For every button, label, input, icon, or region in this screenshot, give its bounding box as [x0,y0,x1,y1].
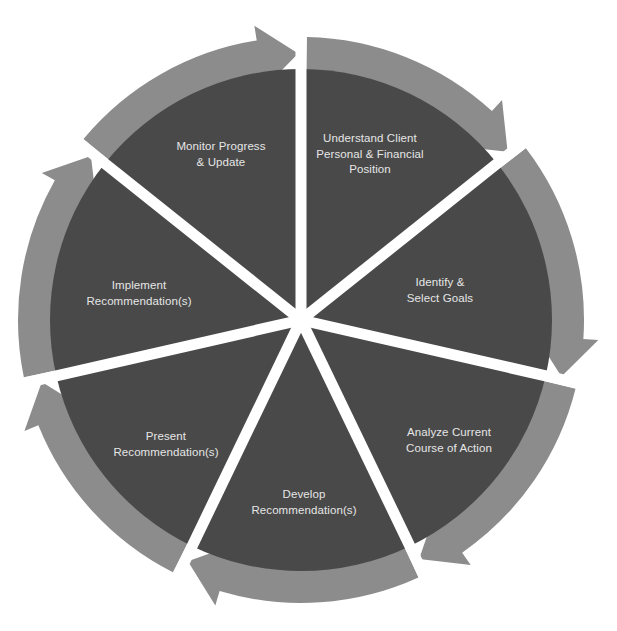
step-label-analyze-current: Analyze Current Course of Action [406,425,492,456]
step-label-present-recommendations: Present Recommendation(s) [113,429,218,460]
step-label-identify-goals: Identify & Select Goals [407,275,473,306]
process-wheel [0,0,617,631]
step-label-monitor-progress: Monitor Progress & Update [176,139,265,170]
step-label-develop-recommendations: Develop Recommendation(s) [251,487,356,518]
step-label-understand-client: Understand Client Personal & Financial P… [316,131,423,178]
step-label-implement-recommendations: Implement Recommendation(s) [86,278,191,309]
